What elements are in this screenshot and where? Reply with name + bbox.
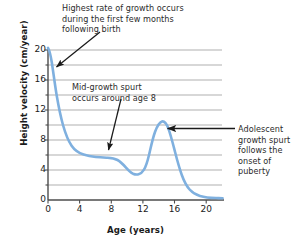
x-axis-title: Age (years) <box>48 225 223 235</box>
x-tick-4: 4 <box>70 204 90 214</box>
annotation-mid-growth-text: Mid-growth spurt occurs around age 8 <box>72 82 202 103</box>
x-tick-16: 16 <box>165 204 185 214</box>
growth-velocity-chart: 20 16 12 8 4 0 0 4 8 12 16 20 Height vel… <box>0 0 307 246</box>
x-tick-0: 0 <box>38 204 58 214</box>
x-tick-12: 12 <box>133 204 153 214</box>
x-tick-20: 20 <box>196 204 216 214</box>
annotation-birth-text: Highest rate of growth occurs during the… <box>62 3 237 35</box>
y-axis-title: Height velocity (cm/year) <box>19 13 29 153</box>
annotation-adolescent-text: Adolescent growth spurt follows the onse… <box>238 124 307 177</box>
x-axis-tick-labels: 0 4 8 12 16 20 <box>0 0 307 246</box>
x-tick-8: 8 <box>101 204 121 214</box>
